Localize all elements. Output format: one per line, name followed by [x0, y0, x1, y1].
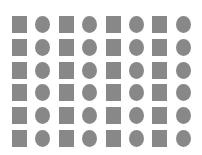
circle-shape	[82, 62, 97, 79]
circle-shape	[129, 107, 144, 124]
square-shape	[59, 62, 74, 79]
square-shape	[59, 84, 74, 101]
square-shape	[59, 39, 74, 56]
square-shape	[106, 16, 121, 33]
circle-shape	[129, 84, 144, 101]
square-shape	[106, 39, 121, 56]
circle-shape	[35, 130, 50, 147]
circle-shape	[129, 16, 144, 33]
square-shape	[152, 39, 167, 56]
circle-shape	[176, 107, 191, 124]
circle-shape	[35, 16, 50, 33]
square-shape	[12, 39, 27, 56]
square-shape	[152, 130, 167, 147]
circle-shape	[176, 16, 191, 33]
square-shape	[12, 62, 27, 79]
square-shape	[12, 107, 27, 124]
circle-shape	[129, 130, 144, 147]
square-shape	[152, 107, 167, 124]
square-shape	[106, 84, 121, 101]
circle-shape	[176, 130, 191, 147]
circle-shape	[82, 39, 97, 56]
square-shape	[106, 62, 121, 79]
circle-shape	[176, 62, 191, 79]
square-shape	[59, 130, 74, 147]
circle-shape	[82, 107, 97, 124]
square-shape	[106, 107, 121, 124]
square-shape	[152, 16, 167, 33]
circle-shape	[176, 84, 191, 101]
circle-shape	[129, 62, 144, 79]
circle-shape	[129, 39, 144, 56]
circle-shape	[176, 39, 191, 56]
square-shape	[152, 62, 167, 79]
circle-shape	[35, 84, 50, 101]
square-shape	[12, 16, 27, 33]
circle-shape	[35, 107, 50, 124]
circle-shape	[82, 130, 97, 147]
square-shape	[12, 84, 27, 101]
square-shape	[12, 130, 27, 147]
square-shape	[59, 16, 74, 33]
circle-shape	[82, 84, 97, 101]
circle-shape	[35, 39, 50, 56]
square-shape	[59, 107, 74, 124]
square-shape	[152, 84, 167, 101]
circle-shape	[82, 16, 97, 33]
circle-shape	[35, 62, 50, 79]
square-shape	[106, 130, 121, 147]
